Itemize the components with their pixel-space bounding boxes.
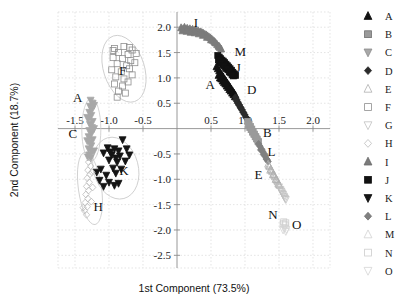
series-C: [84, 97, 98, 162]
data-points: [80, 23, 290, 235]
group-label: K: [119, 163, 129, 178]
legend-label-G: G: [385, 120, 393, 131]
y-tick-label: 1.0: [157, 72, 171, 84]
data-point: [122, 90, 128, 96]
data-point: [229, 72, 235, 78]
y-tick-label: -2.0: [154, 224, 172, 236]
axes-lines: [58, 12, 330, 268]
data-point: [112, 170, 119, 177]
y-axis-title: 2nd Component (18.7%): [8, 83, 20, 197]
legend-label-I: I: [385, 157, 389, 168]
pca-score-plot-figure: -1.5-1.0-0.50.51.01.52.02.01.51.00.5-0.5…: [0, 0, 415, 298]
legend-marker-E: [364, 84, 372, 92]
group-label: D: [247, 82, 256, 97]
data-point: [111, 182, 118, 189]
legend-marker-J: [365, 176, 372, 183]
x-tick-label: 0.5: [204, 114, 218, 126]
group-label: A: [206, 77, 216, 92]
legend-label-D: D: [385, 66, 393, 77]
x-tick-label: 1.5: [272, 114, 286, 126]
legend-marker-L: [364, 212, 371, 220]
legend-marker-B: [365, 31, 372, 38]
group-label: F: [119, 63, 126, 78]
data-point: [129, 72, 135, 78]
legend-label-K: K: [385, 193, 393, 204]
legend-marker-F: [365, 104, 372, 111]
legend-label-N: N: [385, 248, 393, 259]
x-axis-title: 1st Component (73.5%): [139, 282, 250, 294]
legend-marker-M: [364, 230, 372, 238]
y-tick-label: -0.5: [154, 148, 172, 160]
group-label: L: [268, 144, 276, 159]
group-label: H: [93, 199, 102, 214]
data-point: [109, 67, 115, 73]
legend-marker-N: [365, 249, 372, 256]
y-tick-label: 1.5: [157, 47, 171, 59]
x-tick-label: -0.5: [134, 114, 152, 126]
legend-label-J: J: [385, 175, 389, 186]
data-point: [103, 172, 110, 179]
legend-marker-G: [364, 122, 372, 130]
group-label: J: [236, 60, 241, 75]
x-tick-label: -1.5: [66, 114, 84, 126]
data-point: [111, 81, 117, 87]
group-label: B: [263, 125, 272, 140]
legend-marker-I: [364, 157, 372, 165]
legend-label-H: H: [385, 138, 393, 149]
data-point: [106, 157, 113, 164]
cluster-ellipses: [73, 30, 154, 226]
legend-marker-O: [364, 267, 372, 275]
legend-marker-C: [364, 49, 372, 57]
legend-marker-A: [364, 12, 372, 20]
group-label: O: [292, 217, 301, 232]
y-tick-label: 0.5: [157, 97, 171, 109]
gridlines: [58, 12, 330, 268]
group-label: I: [194, 15, 198, 30]
group-label: A: [73, 90, 83, 105]
legend-label-B: B: [385, 29, 392, 40]
group-label: E: [255, 167, 263, 182]
legend-marker-D: [364, 67, 371, 75]
data-point: [100, 150, 107, 157]
scatter-plot-canvas: -1.5-1.0-0.50.51.01.52.02.01.51.00.5-0.5…: [0, 0, 415, 298]
legend-label-M: M: [385, 229, 395, 240]
group-label: N: [268, 207, 278, 222]
x-tick-label: 2.0: [306, 114, 320, 126]
legend-label-C: C: [385, 47, 392, 58]
data-point: [111, 45, 117, 51]
group-label: C: [69, 126, 78, 141]
y-tick-label: -1.5: [154, 199, 172, 211]
legend-label-E: E: [385, 84, 391, 95]
legend-label-O: O: [385, 266, 393, 277]
y-tick-label: -1.0: [154, 173, 172, 185]
x-tick-label: -1.0: [100, 114, 118, 126]
legend-label-A: A: [385, 11, 393, 22]
legend-marker-H: [364, 139, 371, 147]
legend-label-F: F: [385, 102, 391, 113]
legend: ABCDEFGHIJKLMNO: [364, 11, 395, 277]
group-label: M: [234, 44, 246, 59]
y-tick-label: 2.0: [157, 21, 171, 33]
y-tick-label: -2.5: [154, 249, 172, 261]
data-point: [132, 60, 138, 66]
legend-marker-K: [364, 195, 372, 203]
legend-label-L: L: [385, 211, 391, 222]
series-I: [178, 23, 225, 52]
